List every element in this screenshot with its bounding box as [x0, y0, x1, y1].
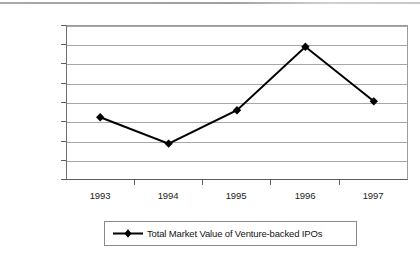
plot-area: [66, 25, 408, 180]
y-tick-mark-20000: [61, 102, 66, 103]
y-tick-mark-5000: [61, 160, 66, 161]
y-tick-mark-0: [61, 179, 66, 180]
gridline-15000: [67, 122, 407, 123]
y-tick-mark-15000: [61, 121, 66, 122]
x-tick-mark-1: [134, 180, 135, 185]
x-tick-label-1995: 1995: [206, 190, 266, 201]
gridline-30000: [67, 64, 407, 65]
line-chart-figure: $40,000 $35,000 $30,000 $25,000 $20,000 …: [0, 0, 420, 259]
x-tick-mark-2: [202, 180, 203, 185]
gridline-35000: [67, 45, 407, 46]
legend-marker-icon: [113, 228, 143, 239]
gridline-20000: [67, 103, 407, 104]
legend: Total Market Value of Venture-backed IPO…: [104, 221, 357, 246]
gridline-40000: [67, 26, 407, 27]
x-tick-label-1996: 1996: [275, 190, 335, 201]
y-tick-mark-30000: [61, 63, 66, 64]
gridline-10000: [67, 142, 407, 143]
legend-entry: Total Market Value of Venture-backed IPO…: [113, 228, 322, 239]
gridline-5000: [67, 161, 407, 162]
gridline-25000: [67, 84, 407, 85]
y-tick-mark-10000: [61, 141, 66, 142]
x-tick-mark-4: [339, 180, 340, 185]
y-tick-mark-35000: [61, 44, 66, 45]
legend-label: Total Market Value of Venture-backed IPO…: [147, 228, 322, 239]
y-tick-mark-40000: [61, 25, 66, 26]
x-tick-label-1997: 1997: [343, 190, 403, 201]
y-tick-mark-25000: [61, 83, 66, 84]
x-tick-label-1994: 1994: [138, 190, 198, 201]
x-tick-label-1993: 1993: [70, 190, 130, 201]
x-tick-mark-3: [270, 180, 271, 185]
